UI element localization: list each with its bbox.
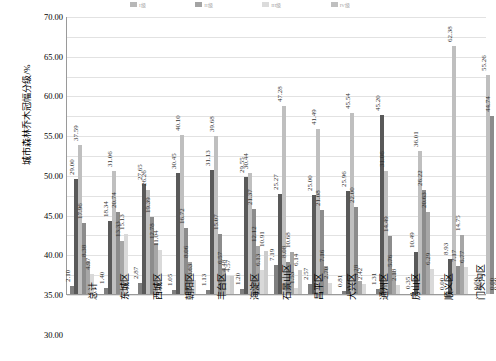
x-axis-tick-cell: 通州区 — [357, 298, 389, 358]
bar[interactable]: 6.77 — [464, 267, 468, 294]
x-axis-tick-label: 丰台区 — [215, 273, 228, 300]
legend-item[interactable]: III级 — [262, 1, 281, 8]
legend-label: I级 — [139, 1, 146, 8]
bar-group: 7.1925.2747.288.0810.681.536.14 — [271, 17, 305, 294]
bar[interactable]: 44.74 — [490, 116, 494, 294]
y-axis-title: 城市森林乔木冠幅分级/% — [20, 45, 33, 185]
legend-swatch — [262, 2, 269, 7]
bar-group: 1.3145.2031.0614.495.762.18 — [373, 17, 407, 294]
y-axis-tick: 70.00 — [44, 12, 63, 22]
bar-value-label: 31.06 — [379, 151, 386, 167]
x-axis-tick-label: 房山区 — [409, 273, 422, 300]
legend-item[interactable]: II级 — [195, 1, 212, 8]
bar-value-label: 18.34 — [103, 201, 110, 217]
x-axis-tick-label: 海淀区 — [248, 273, 261, 300]
bar-value-label: 1.20 — [235, 273, 242, 285]
bar-group: 0.3510.4936.0126.2220.636.29 — [407, 17, 441, 294]
bar-value-label: 44.74 — [485, 97, 492, 113]
bar-value-label: 31.06 — [107, 151, 114, 167]
bar-value-label: 10.91 — [259, 231, 266, 247]
bar-value-label: 10.68 — [285, 232, 292, 248]
bar-value-label: 7.17 — [451, 249, 458, 261]
legend-item[interactable]: I级 — [130, 1, 146, 8]
legend-swatch — [130, 2, 137, 7]
plot-area: 0.005.0010.0015.0020.0025.0030.0035.0040… — [66, 17, 486, 295]
bar-value-label: 6.14 — [293, 253, 300, 265]
bar-value-label: 8.06 — [183, 246, 190, 258]
bar-value-label: 25.27 — [273, 174, 280, 190]
bar[interactable]: 6.29 — [430, 269, 434, 294]
y-axis-tick: 35.00 — [44, 290, 63, 300]
bar-value-label: 45.54 — [345, 93, 352, 109]
y-axis-tick: 60.00 — [44, 91, 63, 101]
x-axis-tick-label: 西城区 — [151, 273, 164, 300]
bar-groups: 2.1029.0037.5917.968.384.971.4018.3431.0… — [67, 17, 486, 294]
bar-group: 0.8125.9645.5422.003.282.42 — [339, 17, 373, 294]
bar-value-label: 2.57 — [303, 268, 310, 280]
bar-value-label: 29.00 — [69, 159, 76, 175]
bar-group: 2.1029.0037.5917.968.384.97 — [67, 17, 101, 294]
bar[interactable]: 2.42 — [362, 284, 366, 294]
y-axis-tick: 55.00 — [44, 131, 63, 141]
chart-container: I级II级III级IV级 城市森林乔木冠幅分级/% 0.005.0010.001… — [0, 0, 496, 361]
bar-group: 2.8727.6526.2619.3912.7811.04 — [135, 17, 169, 294]
legend-label: II级 — [204, 1, 212, 8]
x-axis-tick-cell: 总计 — [66, 298, 98, 358]
bar-value-label: 2.42 — [357, 268, 364, 280]
x-axis-tick-cell: 门头沟区 — [454, 298, 486, 358]
bar-value-label: 15.07 — [213, 214, 220, 230]
bar-value-label: 14.75 — [455, 216, 462, 232]
bar-value-label: 6.77 — [459, 251, 466, 263]
y-axis-tick: 40.00 — [44, 250, 63, 260]
x-axis-tick-label: 通州区 — [377, 273, 390, 300]
bar-value-label: 30.45 — [171, 153, 178, 169]
x-axis-labels: 总计东城区西城区朝阳区丰台区海淀区石景山区昌平区大兴区通州区房山区顺义区门头沟区 — [66, 298, 486, 358]
x-axis-tick-label: 石景山区 — [280, 264, 293, 300]
x-axis-tick-cell: 顺义区 — [421, 298, 453, 358]
bar-value-label: 21.08 — [315, 191, 322, 207]
bar-value-label: 15.13 — [119, 214, 126, 230]
bar-value-label: 14.49 — [383, 217, 390, 233]
bar[interactable]: 2.70 — [328, 283, 332, 294]
bar-group: 1.0530.4540.1016.728.063.63 — [169, 17, 203, 294]
bar-value-label: 20.63 — [421, 192, 428, 208]
bar-value-label: 8.38 — [81, 244, 88, 256]
bar-value-label: 4.97 — [85, 258, 92, 270]
x-axis-tick-label: 昌平区 — [312, 273, 325, 300]
bar-group: 1.4018.3431.0620.7413.3315.13 — [101, 17, 135, 294]
x-axis-tick-cell: 朝阳区 — [163, 298, 195, 358]
bar-value-label: 7.19 — [269, 249, 276, 261]
legend-label: III级 — [271, 1, 281, 8]
bar-group: 1.2029.5530.4421.3712.126.1310.91 — [237, 17, 271, 294]
bar[interactable]: 2.18 — [396, 285, 400, 294]
bar-value-label: 7.16 — [319, 249, 326, 261]
bar-value-label: 45.20 — [375, 95, 382, 111]
legend-swatch — [195, 2, 202, 7]
bar-value-label: 25.00 — [307, 175, 314, 191]
bar-value-label: 6.13 — [255, 253, 262, 265]
legend-item[interactable]: IV级 — [331, 1, 350, 8]
bar-value-label: 37.59 — [73, 125, 80, 141]
bar-value-label: 10.49 — [409, 233, 416, 249]
bar-value-label: 39.68 — [209, 117, 216, 133]
x-axis-tick-label: 朝阳区 — [183, 273, 196, 300]
legend-swatch — [331, 2, 338, 7]
bar-group: 0.000.0055.2644.740.000.00 — [475, 17, 496, 294]
x-axis-tick-cell: 大兴区 — [325, 298, 357, 358]
x-axis-tick-label: 门头沟区 — [474, 264, 487, 300]
bar-value-label: 26.22 — [417, 170, 424, 186]
x-axis-tick-cell: 昌平区 — [292, 298, 324, 358]
bar-value-label: 55.26 — [481, 55, 488, 71]
bar-value-label: 2.18 — [391, 269, 398, 281]
bar-value-label: 20.74 — [111, 192, 118, 208]
bar-value-label: 1.13 — [201, 273, 208, 285]
bar-value-label: 8.93 — [443, 242, 450, 254]
y-axis-tick: 30.00 — [44, 330, 63, 340]
bar-group: 2.5725.0041.4921.087.162.70 — [305, 17, 339, 294]
bar-value-label: 12.12 — [251, 226, 258, 242]
y-axis-tick: 50.00 — [44, 171, 63, 181]
chart-legend: I级II级III级IV级 — [130, 0, 350, 8]
bar-value-label: 47.28 — [277, 86, 284, 102]
x-axis-tick-cell: 东城区 — [98, 298, 130, 358]
y-axis-tick: 45.00 — [44, 211, 63, 221]
